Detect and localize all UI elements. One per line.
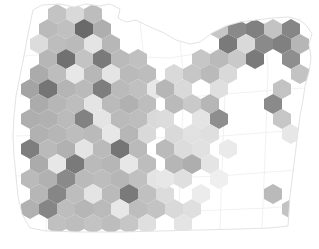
map-canvas (0, 0, 319, 249)
hexbin-density-map (0, 0, 319, 249)
